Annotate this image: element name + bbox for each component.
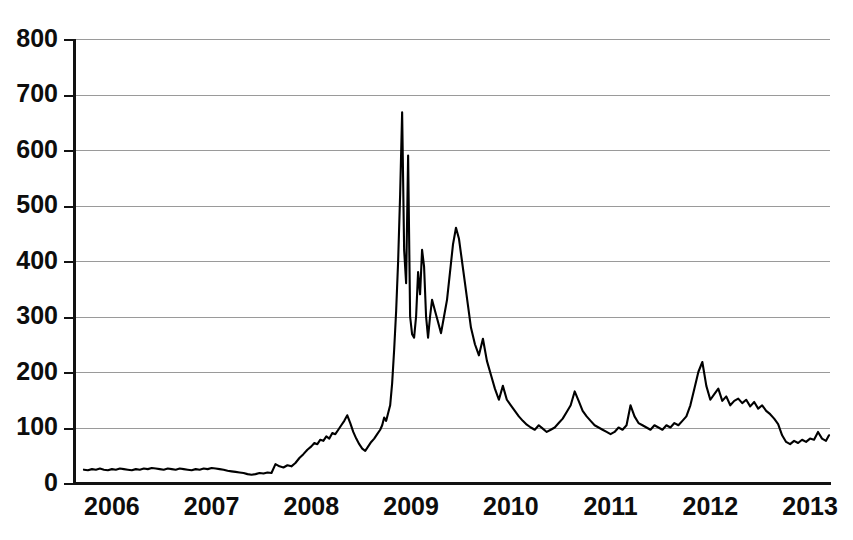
y-axis-tick-label: 0 [44, 468, 58, 496]
x-axis-tick-label: 2012 [683, 492, 739, 520]
chart-figure: 0100200300400500600700800 20062007200820… [0, 0, 853, 540]
x-axis-tick-label: 2011 [583, 492, 637, 520]
data-series-line [84, 112, 829, 474]
y-axis-tick-label: 400 [16, 246, 58, 274]
gridlines-group [74, 40, 830, 429]
x-axis-tick-label: 2010 [483, 492, 539, 520]
y-axis-tick-label: 200 [16, 357, 58, 385]
y-axis-tick-label: 800 [16, 24, 58, 52]
x-axis-tick-label: 2013 [782, 492, 838, 520]
x-axis-tick-label: 2006 [84, 492, 140, 520]
y-axis-tick-label: 700 [16, 79, 58, 107]
caption-fragment [0, 531, 853, 540]
x-axis-tick-label: 2008 [284, 492, 340, 520]
y-axis-tick-label: 100 [16, 412, 58, 440]
line-chart: 0100200300400500600700800 20062007200820… [0, 0, 853, 540]
y-axis-labels-group: 0100200300400500600700800 [16, 24, 58, 496]
x-axis-tick-label: 2009 [383, 492, 439, 520]
y-axis-tick-label: 300 [16, 301, 58, 329]
y-axis-tick-label: 600 [16, 135, 58, 163]
y-axis-tick-label: 500 [16, 190, 58, 218]
x-axis-tick-label: 2007 [184, 492, 240, 520]
y-axis-ticks-group [64, 40, 74, 484]
x-axis-labels-group: 20062007200820092010201120122013 [84, 492, 838, 520]
